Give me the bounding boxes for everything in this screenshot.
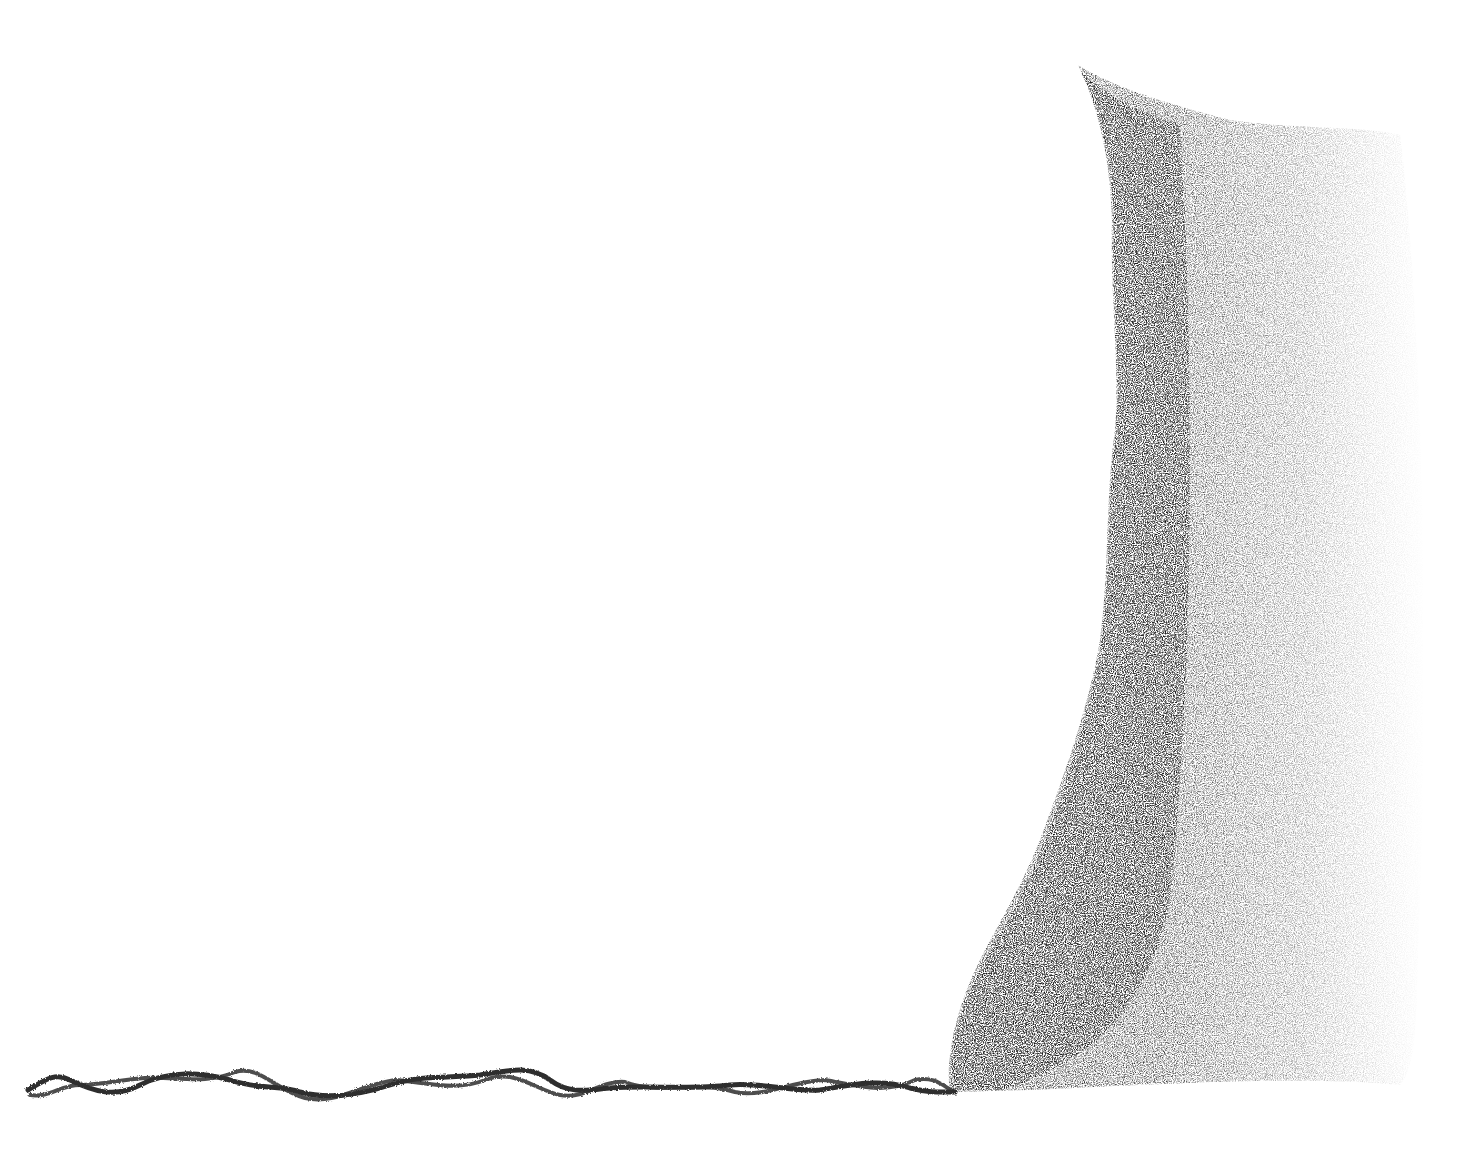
wavy-strand <box>28 1070 955 1099</box>
mass-shadow-core <box>951 70 1190 1090</box>
pencil-drawing <box>0 0 1479 1165</box>
